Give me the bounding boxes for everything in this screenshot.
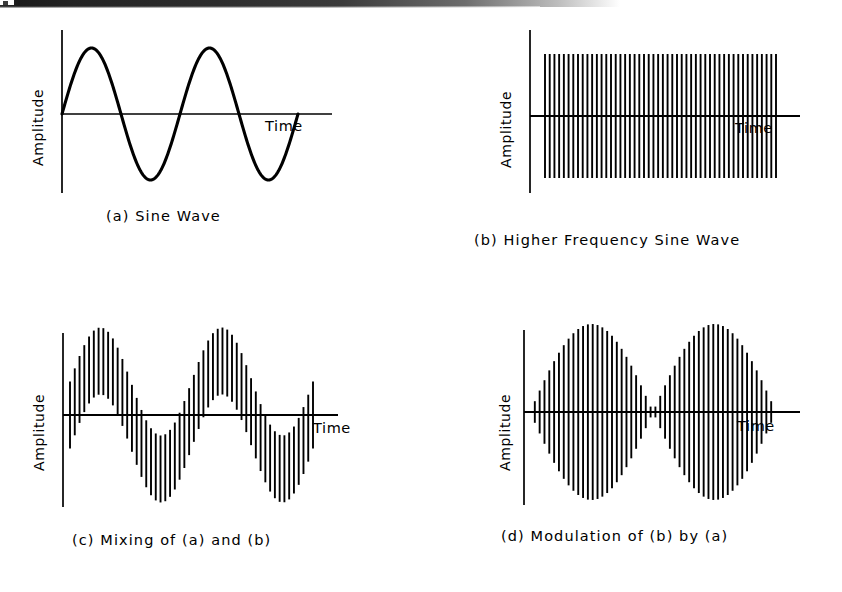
panel-c-mixing: Amplitude Time (c) Mixing of (a) and (b) [0, 296, 421, 592]
panel-d-caption: (d) Modulation of (b) by (a) [501, 528, 728, 544]
figure-root: Amplitude Time (a) Sine Wave Amplitude T… [0, 0, 842, 592]
panel-b-caption: (b) Higher Frequency Sine Wave [474, 232, 740, 248]
panel-b-higher-frequency-sine-wave: Amplitude Time (b) Higher Frequency Sine… [0, 0, 842, 296]
panel-d-x-axis-label: Time [737, 418, 775, 434]
panel-d-plot [421, 296, 842, 592]
panel-b-y-axis-label: Amplitude [498, 91, 514, 168]
panel-c-x-axis-label: Time [313, 420, 351, 436]
panel-c-caption: (c) Mixing of (a) and (b) [72, 532, 271, 548]
panel-c-y-axis-label: Amplitude [31, 394, 47, 471]
panel-d-y-axis-label: Amplitude [497, 394, 513, 471]
panel-b-plot [0, 0, 842, 296]
panel-d-modulation: Amplitude Time (d) Modulation of (b) by … [421, 296, 842, 592]
panel-b-x-axis-label: Time [735, 120, 773, 136]
